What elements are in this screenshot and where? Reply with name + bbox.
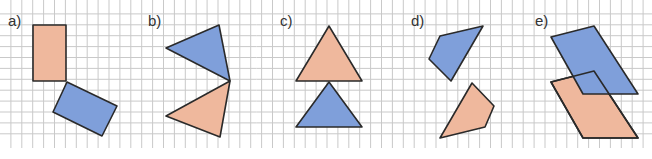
grid-canvas: a)b)c)d)e) bbox=[0, 0, 652, 159]
panel-label: d) bbox=[411, 12, 424, 29]
panel-label: a) bbox=[8, 12, 21, 29]
panel-label: e) bbox=[535, 12, 548, 29]
grid-figure: a)b)c)d)e) bbox=[0, 0, 652, 159]
blue-quadrilateral bbox=[429, 26, 483, 81]
blue-triangle bbox=[166, 25, 230, 81]
panel-label: b) bbox=[148, 12, 161, 29]
orange-triangle bbox=[166, 81, 230, 137]
shapes-layer bbox=[33, 25, 638, 138]
panel-labels: a)b)c)d)e) bbox=[8, 12, 548, 29]
panel-label: c) bbox=[280, 12, 293, 29]
blue-triangle bbox=[296, 82, 362, 127]
orange-triangle bbox=[296, 26, 362, 81]
orange-rectangle bbox=[33, 25, 66, 81]
orange-quadrilateral bbox=[440, 83, 494, 138]
